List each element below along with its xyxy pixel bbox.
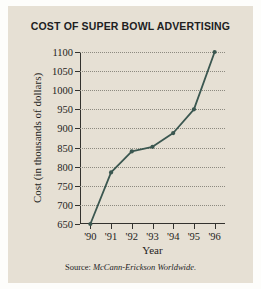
plot-area: 650700750800850900950100010501100 '90'91…: [80, 52, 225, 224]
series-line: [90, 52, 214, 224]
y-axis-tick-label: 800: [57, 161, 73, 172]
chart-figure: COST OF SUPER BOWL ADVERTISING Cost (in …: [8, 6, 253, 283]
y-axis-tick: [75, 224, 80, 225]
y-axis-tick-label: 650: [57, 219, 73, 230]
y-axis-tick-label: 700: [57, 199, 73, 210]
x-axis-tick: [153, 224, 154, 229]
data-point-91: [109, 170, 113, 174]
y-axis-tick-label: 1000: [52, 85, 73, 96]
data-point-94: [171, 131, 175, 135]
x-axis-tick: [173, 224, 174, 229]
x-axis-tick-label: '92: [126, 231, 138, 242]
y-axis-title-label: Cost (in thousands of dollars): [31, 73, 43, 203]
x-axis-tick-label: '91: [105, 231, 117, 242]
x-axis-tick: [111, 224, 112, 229]
data-point-93: [150, 145, 154, 149]
data-point-96: [213, 50, 217, 54]
data-point-90: [88, 222, 92, 226]
x-axis-tick-label: '94: [167, 231, 179, 242]
x-axis-tick: [194, 224, 195, 229]
source-note: Source: McCann-Erickson Worldwide.: [8, 262, 253, 272]
y-axis-tick-label: 950: [57, 104, 73, 115]
data-point-95: [192, 107, 196, 111]
x-axis-tick-label: '90: [84, 231, 96, 242]
x-axis-tick: [215, 224, 216, 229]
y-axis-tick-label: 1050: [52, 66, 73, 77]
y-axis-tick-label: 850: [57, 142, 73, 153]
source-prefix: Source:: [65, 262, 91, 272]
x-axis-tick-label: '95: [188, 231, 200, 242]
y-axis-tick-label: 1100: [52, 47, 73, 58]
x-axis-tick-label: '96: [208, 231, 220, 242]
x-axis-title: Year: [80, 244, 225, 256]
chart-title: COST OF SUPER BOWL ADVERTISING: [8, 20, 253, 32]
y-axis-tick-label: 750: [57, 180, 73, 191]
data-point-92: [130, 149, 134, 153]
series-line-chart: [80, 52, 225, 224]
y-axis-title: Cost (in thousands of dollars): [30, 52, 44, 224]
x-axis-tick: [132, 224, 133, 229]
source-name: McCann-Erickson Worldwide.: [93, 262, 196, 272]
x-axis-tick-label: '93: [146, 231, 158, 242]
y-axis-tick-label: 900: [57, 123, 73, 134]
